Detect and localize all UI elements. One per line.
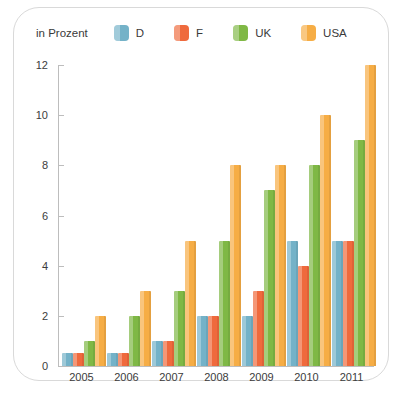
y-tick-label: 0 <box>28 360 48 372</box>
bar-group-2009 <box>242 65 286 366</box>
bar-f-2011 <box>343 241 354 366</box>
bar-uk-2009 <box>264 190 275 366</box>
y-tick-label: 4 <box>28 260 48 272</box>
bar-d-2009 <box>242 316 253 366</box>
bar-f-2008 <box>208 316 219 366</box>
y-tick-label: 8 <box>28 159 48 171</box>
bar-group-2005 <box>62 65 106 366</box>
bar-d-2011 <box>332 241 343 366</box>
bar-uk-2005 <box>84 341 95 366</box>
bar-d-2008 <box>197 316 208 366</box>
bar-uk-2007 <box>174 291 185 366</box>
bars-area <box>59 65 374 366</box>
bar-group-2007 <box>152 65 196 366</box>
bar-d-2005 <box>62 353 73 366</box>
bar-group-2010 <box>287 65 331 366</box>
bar-uk-2011 <box>354 140 365 366</box>
bar-f-2006 <box>118 353 129 366</box>
bar-usa-2008 <box>230 165 241 366</box>
bar-chart-plot: 024681012 2005200620072008200920102011 <box>14 8 390 382</box>
bar-usa-2006 <box>140 291 151 366</box>
chart-frame: in Prozent D F UK USA 024681012 20052006… <box>13 7 389 381</box>
x-tick-label: 2011 <box>322 371 382 383</box>
bar-f-2009 <box>253 291 264 366</box>
bar-f-2007 <box>163 341 174 366</box>
bar-f-2010 <box>298 266 309 366</box>
y-tick-mark <box>58 366 64 367</box>
bar-usa-2010 <box>320 115 331 366</box>
bar-usa-2011 <box>365 65 376 366</box>
bar-usa-2009 <box>275 165 286 366</box>
bar-uk-2010 <box>309 165 320 366</box>
y-tick-label: 2 <box>28 310 48 322</box>
bar-usa-2005 <box>95 316 106 366</box>
bar-d-2010 <box>287 241 298 366</box>
bar-group-2011 <box>332 65 376 366</box>
y-tick-label: 12 <box>28 59 48 71</box>
y-tick-label: 6 <box>28 210 48 222</box>
bar-f-2005 <box>73 353 84 366</box>
bar-group-2008 <box>197 65 241 366</box>
bar-d-2007 <box>152 341 163 366</box>
bar-d-2006 <box>107 353 118 366</box>
bar-usa-2007 <box>185 241 196 366</box>
bar-group-2006 <box>107 65 151 366</box>
y-tick-label: 10 <box>28 109 48 121</box>
bar-uk-2006 <box>129 316 140 366</box>
x-axis-line <box>58 366 374 367</box>
bar-uk-2008 <box>219 241 230 366</box>
